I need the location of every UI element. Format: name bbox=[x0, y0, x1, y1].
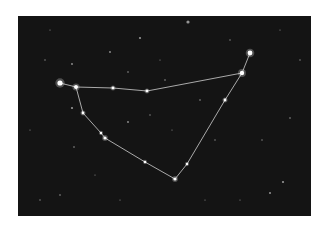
background-star bbox=[127, 71, 129, 73]
constellation-star bbox=[82, 112, 85, 115]
background-star bbox=[73, 146, 75, 148]
image-frame bbox=[0, 0, 325, 230]
background-star bbox=[299, 59, 300, 60]
constellation-star bbox=[248, 51, 253, 56]
background-star bbox=[279, 29, 280, 30]
background-star bbox=[149, 114, 150, 115]
background-star bbox=[261, 139, 262, 140]
background-star bbox=[44, 59, 45, 60]
constellation-star bbox=[57, 80, 62, 85]
constellation-line bbox=[147, 73, 242, 91]
background-star bbox=[39, 199, 40, 200]
constellation-star bbox=[100, 132, 102, 134]
constellation-star bbox=[224, 99, 227, 102]
background-star bbox=[269, 192, 271, 194]
background-star bbox=[119, 199, 120, 200]
background-star bbox=[139, 37, 141, 39]
background-star bbox=[282, 181, 284, 183]
constellation-line bbox=[105, 138, 145, 162]
background-star bbox=[71, 107, 73, 109]
background-star bbox=[127, 121, 129, 123]
background-star bbox=[214, 139, 215, 140]
constellation-line bbox=[175, 164, 187, 179]
background-star bbox=[289, 117, 291, 119]
constellation-star bbox=[186, 163, 188, 165]
constellation-line bbox=[76, 87, 113, 88]
constellation-line bbox=[225, 73, 242, 100]
constellation-star bbox=[144, 161, 146, 163]
background-star bbox=[239, 199, 240, 200]
constellation-line bbox=[76, 87, 83, 113]
background-star bbox=[204, 199, 205, 200]
background-star bbox=[229, 39, 230, 40]
constellation-star bbox=[173, 177, 176, 180]
background-star bbox=[159, 59, 160, 60]
background-star bbox=[94, 174, 95, 175]
background-star bbox=[171, 129, 172, 130]
background-star bbox=[109, 51, 111, 53]
constellation-line bbox=[113, 88, 147, 91]
constellation-star bbox=[112, 87, 115, 90]
background-star bbox=[71, 63, 73, 65]
constellation-star bbox=[240, 71, 244, 75]
background-star bbox=[199, 99, 201, 101]
constellation-line bbox=[145, 162, 175, 179]
constellation-star bbox=[103, 136, 106, 139]
constellation-star bbox=[146, 90, 149, 93]
background-star bbox=[186, 20, 189, 23]
background-star bbox=[59, 194, 61, 196]
background-star bbox=[29, 129, 30, 130]
constellation-chart bbox=[18, 16, 311, 216]
background-star bbox=[49, 29, 50, 30]
constellation-star bbox=[74, 85, 78, 89]
constellation-line bbox=[187, 100, 225, 164]
night-sky-photo bbox=[18, 16, 311, 216]
background-star bbox=[164, 79, 166, 81]
constellation-line bbox=[83, 113, 101, 133]
constellation-lines bbox=[60, 53, 250, 179]
